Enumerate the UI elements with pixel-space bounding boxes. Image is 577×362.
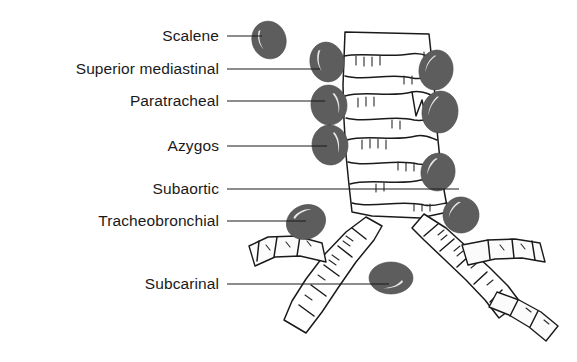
label-superior-mediastinal: Superior mediastinal bbox=[76, 60, 219, 77]
right-main-bronchus-group bbox=[412, 214, 558, 341]
mediastinal-lymph-node-figure: Scalene Superior mediastinal Paratrachea… bbox=[0, 0, 577, 362]
superior-mediastinal-left-node bbox=[306, 39, 348, 85]
label-paratracheal: Paratracheal bbox=[130, 92, 219, 109]
left-upper-lobe-bronchus bbox=[249, 236, 326, 266]
label-subcarinal: Subcarinal bbox=[145, 275, 219, 292]
label-azygos: Azygos bbox=[168, 137, 220, 154]
label-scalene: Scalene bbox=[162, 27, 219, 44]
labels-group: Scalene Superior mediastinal Paratrachea… bbox=[76, 27, 219, 292]
label-tracheobronchial: Tracheobronchial bbox=[98, 212, 219, 229]
label-subaortic: Subaortic bbox=[153, 180, 220, 197]
scalene-node bbox=[247, 17, 291, 64]
subcarinal-node bbox=[369, 262, 413, 294]
